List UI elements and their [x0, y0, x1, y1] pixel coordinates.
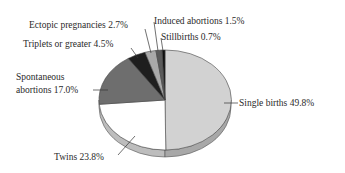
- label-ectopic-pregnancies: Ectopic pregnancies 2.7%: [29, 20, 128, 30]
- label-induced-abortions: Induced abortions 1.5%: [154, 16, 245, 26]
- slice-single-births: [165, 50, 231, 150]
- label-single-births: Single births 49.8%: [239, 98, 314, 108]
- label-twins: Twins 23.8%: [54, 152, 104, 162]
- label-spontaneous-line2: abortions 17.0%: [16, 85, 78, 95]
- label-stillbirths: Stillbirths 0.7%: [161, 32, 221, 42]
- label-triplets-or-greater: Triplets or greater 4.5%: [23, 39, 113, 49]
- slice-twins: [99, 100, 166, 150]
- pie-chart: Single births 49.8% Twins 23.8% Spontane…: [0, 0, 345, 173]
- pie-slices: [99, 50, 231, 150]
- label-spontaneous-line1: Spontaneous: [16, 72, 65, 82]
